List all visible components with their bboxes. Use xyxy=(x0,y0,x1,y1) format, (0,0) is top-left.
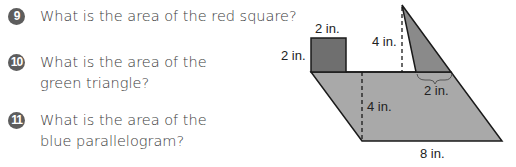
green-triangle xyxy=(402,5,451,72)
square-top-label: 2 in. xyxy=(315,21,340,36)
composite-shape-figure: 2 in. 2 in. 4 in. 2 in. 4 in. 8 in. xyxy=(0,0,516,167)
square-side-label: 2 in. xyxy=(281,48,306,63)
red-square xyxy=(311,38,346,72)
triangle-base-label: 2 in. xyxy=(424,83,449,98)
parallelogram-base-label: 8 in. xyxy=(420,146,445,161)
parallelogram-height-label: 4 in. xyxy=(367,99,392,114)
triangle-height-label: 4 in. xyxy=(372,34,397,49)
blue-parallelogram xyxy=(311,72,502,141)
